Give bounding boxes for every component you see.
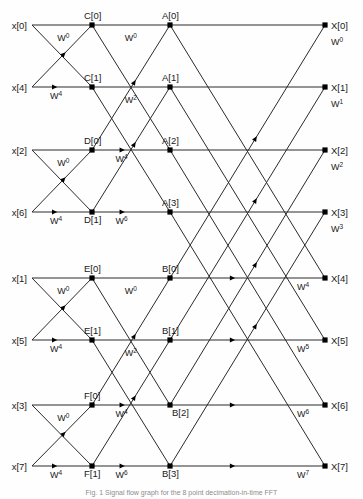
stage1-label-D1: D[1] [84, 214, 101, 225]
stage3-twiddle-3: W3 [331, 223, 344, 234]
stage2-twiddle-0: W0 [125, 32, 138, 43]
output-node-X6 [322, 402, 327, 407]
stage1-twiddle-0: W0 [57, 32, 69, 43]
stage1-node-E1 [89, 337, 94, 342]
stage2-arrowhead-15 [131, 395, 136, 401]
stage3-twiddle-6: W6 [297, 408, 310, 419]
stage2-twiddle-3: W6 [115, 215, 128, 226]
stage3-twiddle-4: W4 [297, 281, 310, 292]
stage3-twiddle-7: W7 [297, 469, 310, 480]
stage1-label-C1: C[1] [84, 72, 101, 83]
output-node-X0 [322, 22, 327, 27]
stage2-node-A0 [167, 22, 172, 27]
stage2-arrowhead-7 [131, 142, 136, 148]
stage1-label-F1: F[1] [84, 468, 100, 479]
stage1-twiddle-2: W0 [57, 157, 69, 168]
stage3-twiddle-0: W0 [331, 36, 344, 47]
output-node-X4 [322, 275, 327, 280]
output-label-X0: X[0] [331, 20, 348, 31]
stage2-label-B0: B[0] [162, 263, 179, 274]
output-node-X3 [322, 209, 327, 214]
stage1-twiddle-1: W4 [50, 90, 63, 101]
output-label-X3: X[3] [331, 207, 348, 218]
stage2-twiddle-7: W6 [115, 469, 128, 480]
input-label-x1: x[1] [12, 273, 27, 284]
stage3-line-arrowhead-7 [230, 464, 235, 469]
output-node-X1 [322, 84, 327, 89]
input-label-x7: x[7] [12, 461, 27, 472]
stage2-node-B0 [167, 275, 172, 280]
stage1-twiddle-7: W4 [50, 469, 63, 480]
input-label-x3: x[3] [12, 400, 27, 411]
stage1-twiddle-6: W0 [57, 412, 69, 423]
stage2-label-B2: B[2] [172, 407, 189, 418]
stage1-twiddle-4: W0 [57, 285, 69, 296]
fft-diagram-canvas: x[0]x[4]x[2]x[6]x[1]x[5]x[3]x[7]X[0]X[1]… [0, 0, 363, 499]
output-node-X2 [322, 147, 327, 152]
stage1-label-E1: E[1] [84, 325, 101, 336]
stage2-arrowhead-5 [131, 80, 136, 86]
stage1-label-F0: F[0] [84, 390, 100, 401]
stage3-twiddle-1: W1 [331, 98, 344, 109]
stage2-label-A2: A[2] [162, 135, 179, 146]
stage1-label-C0: C[0] [84, 10, 101, 21]
output-label-X4: X[4] [331, 273, 348, 284]
stage1-node-E0 [89, 275, 94, 280]
stage1-label-D0: D[0] [84, 135, 101, 146]
stage2-twiddle-4: W0 [125, 285, 138, 296]
output-node-X7 [322, 463, 327, 468]
stage3-line-arrowhead-4 [230, 276, 235, 281]
stage2-label-A0: A[0] [162, 10, 179, 21]
input-label-x4: x[4] [12, 82, 27, 93]
stage3-line-arrowhead-5 [230, 338, 235, 343]
stage2-twiddle-1: W2 [125, 94, 138, 105]
stage2-label-B3: B[3] [162, 468, 179, 479]
stage1-line-arrowhead-1 [52, 85, 57, 90]
input-label-x2: x[2] [12, 145, 27, 156]
input-label-x6: x[6] [12, 207, 27, 218]
stage1-node-C1 [89, 84, 94, 89]
output-label-X6: X[6] [331, 400, 348, 411]
stage2-twiddle-2: W4 [115, 153, 128, 164]
output-label-X7: X[7] [331, 461, 348, 472]
stage1-line-arrowhead-5 [52, 338, 57, 343]
stage1-twiddle-3: W4 [50, 215, 63, 226]
stage1-twiddle-5: W4 [50, 343, 63, 354]
stage1-node-F0 [89, 402, 94, 407]
fft-flow-graph-figure: x[0]x[4]x[2]x[6]x[1]x[5]x[3]x[7]X[0]X[1]… [0, 0, 363, 499]
stage1-label-E0: E[0] [84, 263, 101, 274]
stage2-label-A1: A[1] [162, 72, 179, 83]
stage3-twiddle-2: W2 [331, 161, 344, 172]
output-node-X5 [322, 337, 327, 342]
stage1-line-arrowhead-3 [52, 210, 57, 215]
stage3-twiddle-5: W5 [297, 343, 310, 354]
stage2-node-A2 [167, 147, 172, 152]
stage2-label-A3: A[3] [162, 197, 179, 208]
output-label-X2: X[2] [331, 145, 348, 156]
input-label-x0: x[0] [12, 20, 27, 31]
stage2-twiddle-6: W4 [115, 408, 128, 419]
stage2-twiddle-5: W2 [125, 347, 138, 358]
figure-caption: Fig. 1 Signal flow graph for the 8 point… [86, 489, 279, 497]
stage3-line-arrowhead-6 [230, 403, 235, 408]
stage2-node-B1 [167, 337, 172, 342]
stage1-node-D0 [89, 147, 94, 152]
output-label-X1: X[1] [331, 82, 348, 93]
output-label-X5: X[5] [331, 335, 348, 346]
stage2-node-A3 [167, 209, 172, 214]
stage2-label-B1: B[1] [162, 325, 179, 336]
stage1-line-arrowhead-7 [52, 464, 57, 469]
stage1-node-C0 [89, 22, 94, 27]
input-label-x5: x[5] [12, 335, 27, 346]
stage2-node-A1 [167, 84, 172, 89]
